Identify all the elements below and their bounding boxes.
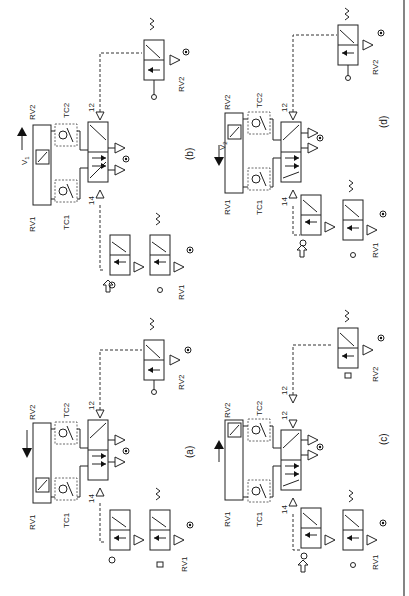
input-arrow-icon: [297, 245, 307, 257]
label-rv1: RV1: [180, 556, 189, 572]
label-tc1: TC1: [255, 511, 264, 527]
input-arrow-icon: [298, 560, 308, 572]
label-rv2: RV2: [177, 76, 186, 92]
port-12: 12: [87, 401, 96, 410]
label-rv1: RV1: [371, 242, 380, 258]
pilot-line-12: [100, 350, 142, 410]
label-tc1: TC1: [62, 512, 71, 528]
pilot-line-12: [293, 345, 333, 395]
label-rv1-bottom: RV1: [28, 514, 37, 530]
label-rv1-bottom: RV1: [223, 199, 232, 215]
port-12: 12: [280, 411, 289, 420]
throttle-check-valve-tc2: [55, 422, 77, 444]
label-tc1: TC1: [62, 214, 71, 230]
label-rv2: RV2: [177, 374, 186, 390]
port-12-extra: 12: [280, 386, 289, 395]
label-rv2-top: RV2: [28, 104, 37, 120]
velocity-label: V1: [20, 156, 30, 165]
pushbutton-icon: [300, 240, 306, 246]
port-14: 14: [280, 505, 289, 514]
label-rv2: RV2: [371, 366, 380, 382]
label-rv1: RV1: [177, 284, 186, 300]
throttle-check-valve-tc1: [248, 480, 270, 502]
label-tc2: TC2: [62, 402, 71, 418]
pilot-line-12: [100, 53, 142, 112]
pilot-line-14: [293, 206, 300, 235]
motion-arrow-icon: [214, 157, 224, 166]
label-rv1-bottom: RV1: [223, 511, 232, 527]
pushbutton-icon: [109, 557, 115, 563]
pilot-line-14: [100, 503, 105, 542]
pilot-line-14: [100, 205, 105, 270]
pilot-line-12: [293, 35, 337, 112]
caption-c: (c): [378, 433, 389, 445]
label-rv2-top: RV2: [28, 404, 37, 420]
port-12: 12: [280, 103, 289, 112]
throttle-check-valve-tc2: [55, 124, 77, 146]
port-14: 14: [87, 196, 96, 205]
motion-arrow-icon: [22, 448, 32, 458]
label-rv1: RV1: [371, 554, 380, 570]
port-14: 14: [280, 197, 289, 206]
caption-d: (d): [378, 116, 389, 128]
label-rv2: RV2: [371, 59, 380, 75]
label-rv2-top: RV2: [223, 94, 232, 110]
throttle-check-valve-tc1: [55, 478, 77, 500]
throttle-check-valve-tc1: [55, 180, 77, 202]
caption-b: (b): [184, 148, 195, 160]
label-tc2: TC2: [255, 400, 264, 416]
pushbutton-icon: [301, 553, 307, 559]
panel-d: RV2 TC2 V2 TC1 RV1 12 14: [214, 8, 389, 258]
throttle-check-valve-tc2: [248, 112, 270, 134]
motion-arrow-icon: [214, 440, 224, 449]
label-tc2: TC2: [255, 92, 264, 108]
pilot-line-14: [293, 514, 300, 550]
panel-b: RV2 TC2 V1 TC1 RV1 12 14: [17, 18, 195, 300]
motion-arrow-icon: [17, 127, 27, 136]
label-tc1: TC1: [255, 199, 264, 215]
caption-a: (a): [184, 446, 195, 458]
label-rv1-bottom: RV1: [28, 216, 37, 232]
velocity-label: V2: [218, 141, 228, 150]
label-tc2: TC2: [62, 102, 71, 118]
throttle-check-valve-tc1: [248, 168, 270, 190]
port-14: 14: [87, 494, 96, 503]
throttle-check-valve-tc2: [248, 419, 270, 441]
panel-c: RV2 TC2 TC1 RV1 12 12 14: [214, 310, 389, 572]
port-12: 12: [87, 103, 96, 112]
panel-a: RV2 TC2 TC1 RV1 12 14: [22, 318, 195, 572]
cylinder: [33, 125, 51, 205]
pneumatic-circuit-figure: RV2 TC2 V1 TC1 RV1 12 14: [0, 0, 409, 596]
label-rv2-top: RV2: [223, 402, 232, 418]
